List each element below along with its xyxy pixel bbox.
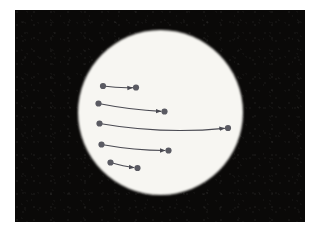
arrow-2-start-dot [95,100,101,106]
figure-overlay [0,0,322,237]
arrow-1-end-dot [133,84,139,90]
arrow-3-end-dot [225,125,231,131]
solar-disk [78,30,243,195]
arrow-5-end-dot [134,165,140,171]
arrow-5-start-dot [107,159,113,165]
arrow-3-start-dot [96,120,102,126]
arrow-2-end-dot [161,108,167,114]
arrow-4-end-dot [165,147,171,153]
arrow-1-start-dot [100,83,106,89]
solar-disk-figure [0,0,322,237]
arrow-4-start-dot [98,141,104,147]
